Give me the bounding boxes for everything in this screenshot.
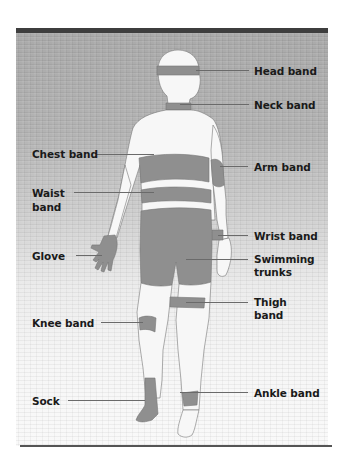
- leader-glove: [76, 255, 102, 256]
- label-chest-band: Chest band: [32, 148, 98, 160]
- leader-thigh-band: [186, 302, 248, 303]
- leader-neck-band: [180, 104, 249, 105]
- head: [158, 50, 200, 104]
- right-foot: [178, 410, 199, 437]
- label-waist-band-line1: Waist: [32, 187, 65, 199]
- leader-sock: [68, 400, 145, 401]
- waist-band: [141, 187, 211, 203]
- leader-knee-band: [101, 322, 143, 323]
- leader-arm-band: [220, 166, 248, 167]
- chest-band: [139, 154, 209, 183]
- right-hand: [217, 238, 231, 276]
- leader-wrist-band: [218, 235, 248, 236]
- swimming-trunks: [140, 208, 212, 286]
- leader-head-band: [196, 70, 249, 71]
- label-swimming-trunks-line1: Swimming: [254, 253, 315, 265]
- leader-chest-band: [96, 154, 154, 155]
- label-head-band: Head band: [254, 65, 317, 77]
- head-band: [157, 66, 199, 75]
- label-thigh-band-line2: band: [254, 309, 283, 321]
- label-sock: Sock: [32, 395, 60, 407]
- label-knee-band: Knee band: [32, 317, 94, 329]
- label-ankle-band: Ankle band: [254, 387, 320, 399]
- label-glove: Glove: [32, 250, 65, 262]
- label-swimming-trunks-line2: trunks: [254, 266, 292, 278]
- label-arm-band: Arm band: [254, 161, 311, 173]
- bottom-rule: [20, 445, 332, 447]
- arm-band: [211, 159, 224, 187]
- label-neck-band: Neck band: [254, 99, 315, 111]
- label-thigh-band-line1: Thigh: [254, 296, 287, 308]
- glove: [91, 235, 117, 272]
- label-waist-band-line2: band: [32, 201, 61, 213]
- leader-ankle-band: [180, 392, 248, 393]
- ankle-band: [182, 391, 198, 406]
- leader-swimming-trunks: [186, 259, 248, 260]
- leader-waist-band: [74, 192, 154, 193]
- knee-band: [139, 316, 156, 332]
- label-wrist-band: Wrist band: [254, 230, 318, 242]
